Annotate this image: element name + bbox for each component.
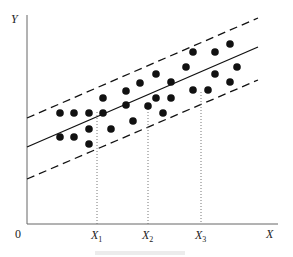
data-point [226,40,234,48]
data-point [211,70,219,78]
data-point [129,117,137,125]
origin-label: 0 [15,227,21,241]
x2-label: X2 [141,228,153,244]
data-point [85,109,93,117]
regression-diagram: Y X 0 X1X2X3 [0,0,293,257]
data-point [189,48,197,56]
regression-line [27,47,258,147]
data-point [211,48,219,56]
x1-label: X1 [90,228,102,244]
upper-bound-line [27,18,258,118]
x3-label: X3 [194,228,206,244]
data-point [56,133,64,141]
data-point [70,133,78,141]
data-point [233,63,241,71]
data-point [152,94,160,102]
data-point [56,109,64,117]
data-point [99,109,107,117]
lower-bound-line [27,80,258,179]
x-marker-labels: X1X2X3 [90,228,206,244]
data-point [204,86,212,94]
y-axis-label: Y [11,12,19,26]
x-axis-label: X [265,227,274,241]
data-point [85,140,93,148]
data-point [189,86,197,94]
data-point [152,70,160,78]
data-point [182,63,190,71]
regression-lines [27,18,258,179]
data-point [122,101,130,109]
data-point [70,109,78,117]
data-point [226,78,234,86]
data-point [136,79,144,87]
data-point [99,94,107,102]
data-point [85,125,93,133]
data-point [122,87,130,95]
data-point [107,125,115,133]
data-point [144,102,152,110]
data-point [167,94,175,102]
figure-caption [95,251,185,255]
data-point [159,109,167,117]
data-point [167,78,175,86]
